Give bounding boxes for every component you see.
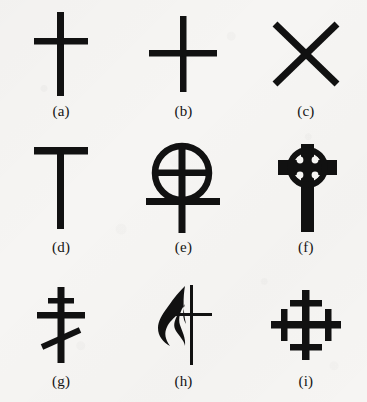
symbol-caption-e: (e) bbox=[175, 240, 192, 255]
symbol-cell-i: (i) bbox=[245, 268, 367, 402]
symbol-caption-b: (b) bbox=[174, 104, 192, 119]
symbol-cell-e: (e) bbox=[122, 134, 244, 268]
symbol-cell-h: (h) bbox=[122, 268, 244, 402]
coptic-circled-cross-icon bbox=[144, 140, 222, 236]
symbol-caption-a: (a) bbox=[53, 104, 70, 119]
symbol-caption-c: (c) bbox=[297, 104, 314, 119]
symbol-caption-h: (h) bbox=[174, 374, 192, 389]
latin-cross-icon bbox=[31, 8, 91, 100]
symbol-caption-f: (f) bbox=[298, 240, 314, 255]
symbol-caption-d: (d) bbox=[52, 240, 70, 255]
saltire-cross-icon bbox=[271, 8, 341, 100]
cross-and-flame-icon bbox=[152, 280, 214, 370]
symbol-cell-c: (c) bbox=[245, 0, 367, 134]
symbol-cell-d: (d) bbox=[0, 134, 122, 268]
symbol-grid: (a) (b) (c) bbox=[0, 0, 367, 402]
tau-cross-icon bbox=[31, 140, 91, 236]
cross-crosslet-icon bbox=[269, 280, 343, 370]
greek-cross-icon bbox=[147, 8, 219, 100]
symbol-cell-a: (a) bbox=[0, 0, 122, 134]
celtic-cross-icon bbox=[275, 140, 337, 236]
symbol-caption-g: (g) bbox=[52, 374, 70, 389]
russian-orthodox-cross-icon bbox=[35, 280, 87, 370]
symbol-cell-f: (f) bbox=[245, 134, 367, 268]
cross-symbols-figure: (a) (b) (c) bbox=[0, 0, 367, 402]
symbol-cell-b: (b) bbox=[122, 0, 244, 134]
symbol-caption-i: (i) bbox=[298, 374, 313, 389]
symbol-cell-g: (g) bbox=[0, 268, 122, 402]
